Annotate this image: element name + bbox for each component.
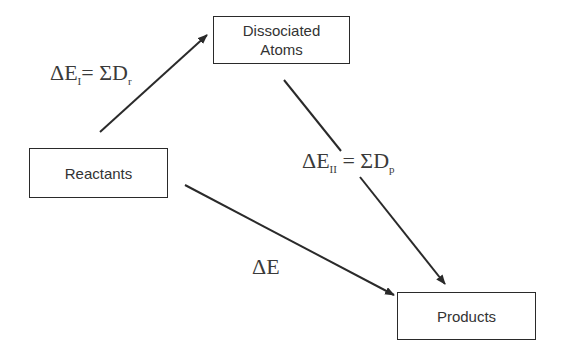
edge-label-overall-text: ΔE <box>252 254 280 279</box>
edge-label-step-two-sub: II <box>330 163 337 175</box>
node-dissociated-atoms-line1: Dissociated <box>243 21 321 40</box>
node-products-label: Products <box>437 307 496 326</box>
node-dissociated-atoms: Dissociated Atoms <box>213 16 350 64</box>
edge-label-step-two-eq: = ΣD <box>337 148 389 173</box>
node-reactants: Reactants <box>29 148 168 198</box>
edge-label-overall: ΔE <box>252 256 280 278</box>
edge-label-step-two-sub2: p <box>389 163 395 175</box>
edge-label-step-one-prefix: ΔE <box>50 60 78 85</box>
thermochemical-cycle-diagram: Dissociated Atoms Reactants Products ΔEI… <box>0 0 561 362</box>
edge-label-step-one: ΔEI= ΣDr <box>50 62 132 87</box>
edge-label-step-one-sub2: r <box>128 75 132 87</box>
edge-label-step-one-eq: = ΣD <box>81 60 128 85</box>
node-products: Products <box>397 292 536 340</box>
arrow-reactants-to-products <box>185 185 394 295</box>
edge-label-step-two-prefix: ΔE <box>302 148 330 173</box>
node-reactants-label: Reactants <box>65 164 133 183</box>
edge-label-step-two: ΔEII = ΣDp <box>302 150 395 175</box>
arrow-atoms-to-products-lower <box>360 177 445 284</box>
node-dissociated-atoms-line2: Atoms <box>260 40 303 59</box>
arrow-atoms-to-products-upper <box>284 80 341 151</box>
